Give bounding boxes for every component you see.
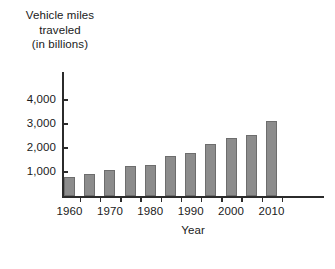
bar: [246, 135, 257, 196]
x-axis-tick-label: 2010: [250, 205, 294, 217]
bar: [266, 121, 277, 196]
x-axis-tick: [262, 197, 264, 202]
x-axis-tick-label: 2000: [209, 205, 253, 217]
x-axis-tick: [241, 197, 243, 202]
plot-area: 1,0002,0003,0004,000 1960197019801990200…: [0, 0, 335, 269]
bar-chart-figure: Vehicle miles traveled (in billions) 1,0…: [0, 0, 335, 269]
y-axis-tick-label: 3,000: [4, 118, 56, 130]
x-axis-tick: [120, 197, 122, 202]
x-axis-tick: [140, 197, 142, 202]
bar: [145, 165, 156, 196]
y-axis-tick-label: 1,000: [4, 166, 56, 178]
y-axis-tick-label: 4,000: [4, 94, 56, 106]
x-axis-tick: [161, 197, 163, 202]
x-axis-tick-label: 1960: [48, 205, 92, 217]
x-axis-title: Year: [62, 224, 324, 236]
bar: [185, 153, 196, 196]
x-axis-tick: [100, 197, 102, 202]
x-axis-tick: [221, 197, 223, 202]
bar: [205, 144, 216, 196]
bar: [165, 156, 176, 196]
x-axis-tick-label: 1990: [169, 205, 213, 217]
y-axis-tick: [63, 171, 68, 173]
bar: [125, 166, 136, 196]
x-axis-tick-label: 1980: [128, 205, 172, 217]
bar: [84, 174, 95, 196]
y-axis-tick: [63, 147, 68, 149]
y-axis-tick: [63, 99, 68, 101]
bar: [64, 177, 75, 196]
x-axis-tick: [201, 197, 203, 202]
y-axis-tick-label: 2,000: [4, 142, 56, 154]
bar: [226, 138, 237, 196]
bar: [104, 170, 115, 196]
y-axis-tick: [63, 123, 68, 125]
x-axis-tick-label: 1970: [88, 205, 132, 217]
x-axis-tick: [282, 197, 284, 202]
x-axis-tick: [80, 197, 82, 202]
x-axis-tick: [181, 197, 183, 202]
